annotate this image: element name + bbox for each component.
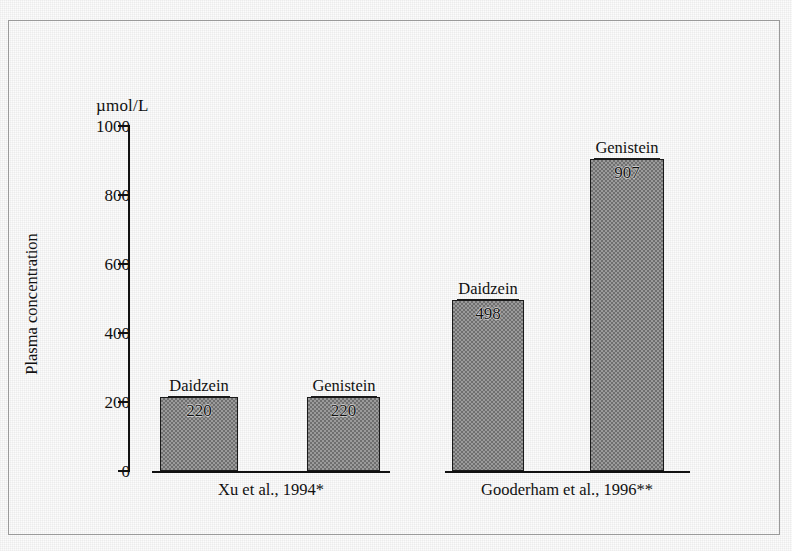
series-label-text: Daidzein	[457, 279, 519, 300]
series-label-xu-daidzein: Daidzein	[150, 378, 248, 395]
series-label-gooderham-daidzein: Daidzein	[438, 281, 538, 298]
group-baseline-2	[445, 471, 690, 473]
figure-page: µmol/L Plasma concentration 0 200 400 60…	[0, 0, 792, 551]
bar-gooderham-daidzein[interactable]: 498	[452, 300, 524, 471]
bar-xu-daidzein[interactable]: 220	[160, 397, 238, 471]
bar-gooderham-genistein[interactable]: 907	[590, 159, 664, 471]
series-label-text: Genistein	[311, 376, 376, 397]
bar-xu-genistein[interactable]: 220	[307, 397, 380, 471]
bar-value-label: 907	[591, 163, 663, 183]
plot-area: 220 Daidzein 220 Genistein Xu et al., 19…	[0, 0, 792, 551]
group-label-gooderham: Gooderham et al., 1996**	[443, 480, 691, 500]
group-baseline-1	[152, 471, 390, 473]
series-label-xu-genistein: Genistein	[292, 378, 396, 395]
series-label-text: Genistein	[594, 138, 659, 159]
series-label-gooderham-genistein: Genistein	[575, 140, 679, 157]
bar-value-label: 498	[453, 304, 523, 324]
series-label-text: Daidzein	[168, 376, 230, 397]
bar-value-label: 220	[161, 401, 237, 421]
group-label-xu: Xu et al., 1994*	[152, 480, 390, 500]
bar-value-label: 220	[308, 401, 379, 421]
